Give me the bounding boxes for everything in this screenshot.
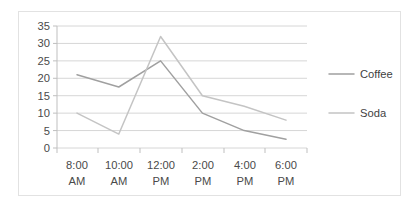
line-chart: 35 30 25 20 15 10 5 0 8:00 AM 10:: [19, 12, 400, 195]
x-tick-label-time: 2:00: [192, 159, 214, 171]
y-axis-ticks: [53, 26, 57, 148]
x-tick-label-meridiem: PM: [153, 175, 170, 187]
y-tick-label: 15: [38, 90, 50, 102]
x-tick-label-time: 10:00: [105, 159, 133, 171]
legend-label-soda: Soda: [360, 107, 387, 119]
legend: Coffee Soda: [329, 68, 393, 119]
series-coffee-line: [77, 61, 286, 139]
x-tick-label-meridiem: PM: [237, 175, 254, 187]
x-tick-label-meridiem: AM: [69, 175, 86, 187]
y-tick-label: 35: [38, 20, 50, 32]
x-tick-label-meridiem: PM: [195, 175, 212, 187]
x-tick-label-time: 8:00: [66, 159, 88, 171]
y-axis-labels: 35 30 25 20 15 10 5 0: [38, 20, 50, 154]
x-axis-labels: 8:00 AM 10:00 AM 12:00 PM 2:00 PM 4:00 P…: [66, 159, 297, 187]
legend-label-coffee: Coffee: [360, 68, 393, 80]
y-tick-label: 10: [38, 107, 50, 119]
y-tick-label: 5: [44, 125, 50, 137]
x-tick-label-time: 4:00: [234, 159, 256, 171]
y-tick-label: 20: [38, 72, 50, 84]
y-tick-label: 30: [38, 37, 50, 49]
chart-container: 35 30 25 20 15 10 5 0 8:00 AM 10:: [18, 11, 401, 196]
x-tick-label-time: 12:00: [147, 159, 175, 171]
series-soda-line: [77, 36, 286, 134]
y-tick-label: 0: [44, 142, 50, 154]
x-axis-ticks: [57, 148, 307, 153]
x-tick-label-time: 6:00: [275, 159, 297, 171]
x-tick-label-meridiem: PM: [278, 175, 295, 187]
y-tick-label: 25: [38, 55, 50, 67]
x-tick-label-meridiem: AM: [111, 175, 128, 187]
